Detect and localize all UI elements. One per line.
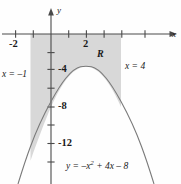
y-tick-label-neg4: -4 <box>58 64 67 75</box>
y-axis-arrow <box>48 8 54 16</box>
region-label-R: R <box>97 49 104 59</box>
x-tick-label-2: 2 <box>83 39 88 50</box>
x-axis-label: x <box>172 30 176 39</box>
curve-equation-prefix: y = –x <box>66 161 90 171</box>
left-boundary-label: x = –1 <box>2 70 27 80</box>
y-axis-label: y <box>57 6 61 15</box>
shaded-region-R <box>31 34 122 161</box>
y-tick-label-neg12: -12 <box>58 138 72 149</box>
right-boundary-label: x = 4 <box>125 62 145 72</box>
graph-canvas <box>0 0 181 184</box>
y-tick-label-neg8: -8 <box>58 101 67 112</box>
x-tick-label-neg2: -2 <box>9 39 18 50</box>
curve-equation-suffix: + 4x – 8 <box>94 161 128 171</box>
graph-figure: y x -2 2 -4 -8 -12 R x = –1 x = 4 y = –x… <box>0 0 181 184</box>
curve-equation-label: y = –x2 + 4x – 8 <box>66 160 128 172</box>
